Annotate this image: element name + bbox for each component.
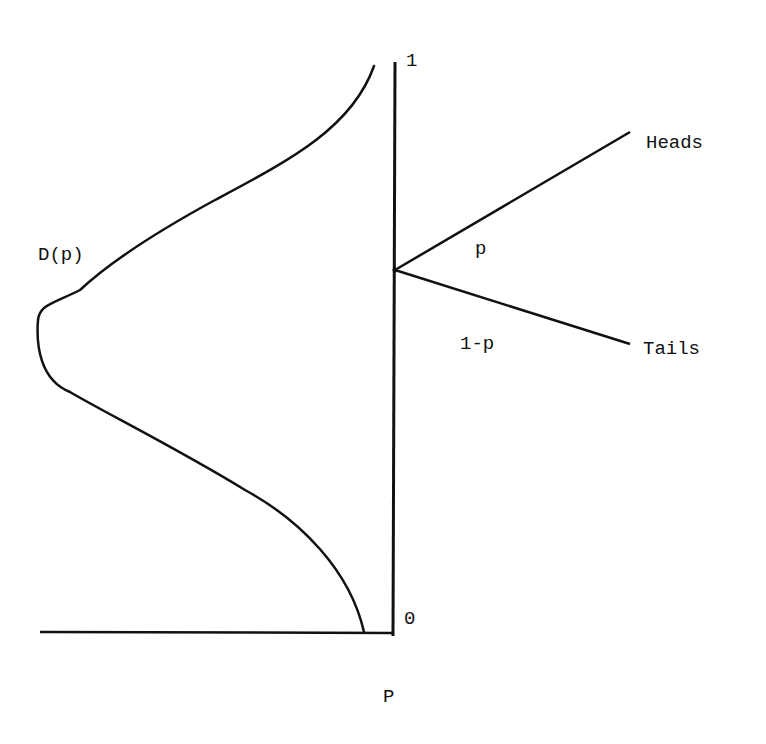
heads-outcome-label: Heads: [646, 134, 703, 153]
density-curve: [38, 66, 374, 632]
baseline: [40, 632, 393, 633]
heads-branch: [395, 132, 630, 270]
heads-probability-label: p: [475, 240, 486, 259]
p-axis: [393, 62, 395, 636]
diagram-canvas: [0, 0, 766, 744]
tails-branch: [395, 270, 630, 344]
axis-top-label: 1: [406, 52, 417, 71]
density-label: D(p): [38, 246, 84, 265]
axis-name-label: P: [383, 688, 394, 707]
tails-probability-label: 1-p: [460, 335, 494, 354]
tails-outcome-label: Tails: [643, 340, 700, 359]
axis-bottom-label: 0: [404, 610, 415, 629]
branch-node: [393, 268, 398, 273]
